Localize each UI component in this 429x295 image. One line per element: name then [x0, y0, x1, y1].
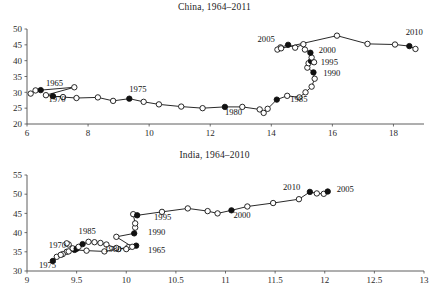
year-annotation: 2000	[233, 210, 250, 220]
data-point-filled	[311, 70, 316, 75]
data-point-filled	[38, 87, 43, 92]
x-axis-tick-label: 12	[320, 275, 329, 285]
x-axis-tick-label: 6	[25, 128, 30, 138]
year-annotation: 1980	[104, 244, 121, 254]
data-point-filled	[80, 241, 85, 246]
x-axis-tick-label: 13	[420, 275, 429, 285]
data-point-open	[301, 42, 306, 47]
data-point-open	[365, 41, 370, 46]
year-annotation: 1995	[154, 212, 171, 222]
data-point-open	[270, 200, 275, 205]
data-point-filled	[308, 50, 313, 55]
year-annotation: 1980	[225, 107, 242, 117]
x-axis-tick-label: 10	[122, 275, 132, 285]
y-axis-tick-label: 30	[13, 266, 23, 276]
data-point-open	[28, 91, 33, 96]
data-point-open	[98, 240, 103, 245]
x-axis-tick-label: 10	[145, 128, 155, 138]
x-axis-tick-label: 11	[221, 275, 230, 285]
data-point-open	[130, 244, 135, 249]
data-point-open	[72, 85, 77, 90]
year-annotation: 1990	[323, 68, 340, 78]
axis-lines	[27, 175, 424, 271]
y-axis-tick-label: 55	[13, 170, 23, 180]
x-axis-tick-label: 8	[86, 128, 91, 138]
year-annotation: 2000	[319, 45, 336, 55]
data-point-open	[95, 95, 100, 100]
data-point-open	[200, 105, 205, 110]
year-annotation: 1985	[79, 226, 96, 236]
data-point-filled	[325, 189, 330, 194]
data-point-open	[92, 240, 97, 245]
plot-area-china: 2025303540455068101214161819651970197519…	[0, 0, 429, 148]
data-point-filled	[134, 213, 139, 218]
data-point-open	[132, 221, 137, 226]
series-line	[31, 36, 416, 113]
x-axis-tick-label: 18	[389, 128, 399, 138]
data-point-filled	[307, 189, 312, 194]
data-point-open	[284, 93, 289, 98]
chart-panel-india: India, 1964–2010 30354045505599.51010.51…	[0, 148, 429, 295]
year-annotation: 1965	[148, 245, 165, 255]
y-axis-tick-label: 50	[13, 24, 23, 34]
data-point-open	[185, 206, 190, 211]
data-point-filled	[127, 96, 132, 101]
year-annotation: 2005	[337, 184, 354, 194]
data-point-open	[413, 46, 418, 51]
data-point-filled	[407, 43, 412, 48]
x-axis-tick-label: 12.5	[367, 275, 383, 285]
data-point-open	[179, 104, 184, 109]
data-point-open	[314, 191, 319, 196]
data-point-open	[141, 99, 146, 104]
data-point-open	[334, 33, 339, 38]
plot-area-india: 30354045505599.51010.51111.51212.5131965…	[0, 148, 429, 295]
y-axis-tick-label: 40	[13, 56, 23, 66]
year-annotation: 1975	[129, 84, 146, 94]
data-point-filled	[131, 231, 136, 236]
data-point-open	[74, 95, 79, 100]
data-point-filled	[285, 42, 290, 47]
data-point-open	[215, 211, 220, 216]
year-annotation: 1975	[39, 260, 56, 270]
x-axis-tick-label: 14	[267, 128, 277, 138]
data-point-open	[278, 46, 283, 51]
year-annotation: 1965	[46, 78, 63, 88]
data-point-open	[296, 196, 301, 201]
data-point-open	[309, 84, 314, 89]
year-annotation: 2005	[258, 34, 275, 44]
figure-root: China, 1964–2011 20253035404550681012141…	[0, 0, 429, 295]
y-axis-tick-label: 35	[13, 247, 23, 257]
x-axis-tick-label: 12	[206, 128, 215, 138]
data-point-open	[124, 246, 129, 251]
data-point-open	[312, 76, 317, 81]
chart-panel-china: China, 1964–2011 20253035404550681012141…	[0, 0, 429, 148]
data-point-open	[392, 42, 397, 47]
data-point-open	[58, 252, 63, 257]
data-point-open	[84, 248, 89, 253]
data-point-open	[245, 204, 250, 209]
x-axis-tick-label: 16	[328, 128, 338, 138]
year-annotation: 2010	[283, 182, 300, 192]
data-point-filled	[274, 97, 279, 102]
year-annotation: 1970	[48, 94, 65, 104]
x-axis-tick-label: 9	[25, 275, 30, 285]
y-axis-tick-label: 30	[13, 88, 23, 98]
year-annotation: 1995	[321, 57, 338, 67]
y-axis-tick-label: 50	[13, 189, 23, 199]
year-annotation: 2010	[406, 27, 423, 37]
year-annotation: 1990	[148, 227, 165, 237]
data-point-open	[292, 45, 297, 50]
y-axis-tick-label: 20	[13, 119, 23, 129]
data-point-open	[86, 239, 91, 244]
year-annotation: 1970	[49, 240, 66, 250]
data-point-open	[302, 47, 307, 52]
data-point-open	[265, 106, 270, 111]
y-axis-tick-label: 40	[13, 228, 23, 238]
x-axis-tick-label: 11.5	[267, 275, 283, 285]
y-axis-tick-label: 35	[13, 72, 23, 82]
year-annotation: 1985	[290, 94, 307, 104]
data-point-open	[205, 208, 210, 213]
y-axis-tick-label: 25	[13, 103, 23, 113]
x-axis-tick-label: 9.5	[71, 275, 83, 285]
y-axis-tick-label: 45	[13, 40, 23, 50]
